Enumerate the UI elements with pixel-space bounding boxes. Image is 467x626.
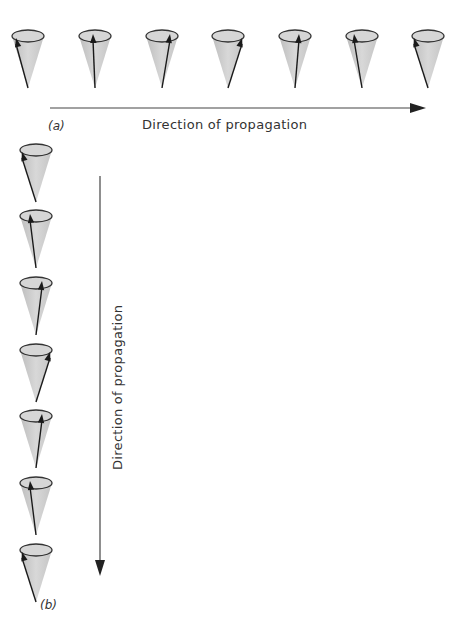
precession-cone: [12, 30, 44, 88]
precession-diagram: [0, 0, 467, 626]
panel-a-axis-label: Direction of propagation: [142, 117, 307, 132]
precession-cone: [20, 477, 52, 535]
horizontal-propagation-arrow: [50, 103, 426, 113]
precession-cone: [146, 30, 178, 88]
precession-cone: [346, 30, 378, 88]
panel-a-label: (a): [48, 119, 65, 133]
precession-cone: [279, 30, 311, 88]
panel-b-cones: [20, 144, 52, 602]
panel-b-axis-label: Direction of propagation: [110, 305, 125, 470]
precession-cone: [20, 210, 52, 268]
precession-cone: [20, 544, 52, 602]
precession-cone: [212, 30, 244, 88]
arrowhead-down-icon: [95, 560, 105, 576]
precession-cone: [20, 410, 52, 468]
panel-b-label: (b): [40, 598, 57, 612]
arrowhead-right-icon: [410, 103, 426, 113]
precession-cone: [20, 344, 52, 402]
vertical-propagation-arrow: [95, 176, 105, 576]
panel-a-cones: [12, 30, 444, 88]
precession-cone: [20, 144, 52, 202]
precession-cone: [20, 277, 52, 335]
precession-cone: [79, 30, 111, 88]
precession-cone: [412, 30, 444, 88]
